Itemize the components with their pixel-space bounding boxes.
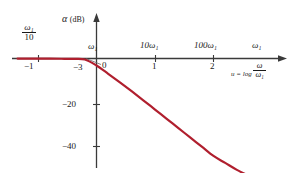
response-curve bbox=[18, 59, 258, 173]
y-tick-neg20: −20 bbox=[62, 100, 76, 109]
x-tick-1: 1 bbox=[152, 62, 157, 71]
x-tick-0: 0 bbox=[102, 61, 107, 70]
x-tick-2: 2 bbox=[210, 62, 215, 71]
x-tick-upper-w1-right: ω₁ bbox=[252, 41, 261, 50]
x-tick-upper-w1: ω₁ bbox=[88, 42, 97, 51]
y-axis-title: α (dB) bbox=[62, 14, 84, 24]
x-axis-title-prefix: u = log bbox=[231, 70, 252, 78]
x-axis-title: u = log ω ω₁ bbox=[231, 61, 266, 78]
w1-over-10-numerator: ω₁ bbox=[22, 23, 35, 32]
x-tick-neg1: −1 bbox=[24, 62, 34, 71]
x-tick-upper-100w1: 100ω₁ bbox=[194, 41, 217, 50]
x-tick-upper-10w1: 10ω₁ bbox=[140, 41, 158, 50]
y-axis bbox=[93, 13, 99, 168]
x-tick-upper-w1-over-10: ω₁ 10 bbox=[16, 23, 42, 42]
x-axis-frac-denominator: ω₁ bbox=[253, 70, 265, 79]
w1-over-10-denominator: 10 bbox=[22, 32, 35, 42]
y-axis-symbol: α bbox=[62, 13, 67, 24]
y-tick-neg40: −40 bbox=[62, 142, 76, 151]
plot-canvas bbox=[0, 0, 289, 173]
y-axis-unit: (dB) bbox=[70, 15, 85, 24]
y-tick-neg3: −3 bbox=[73, 63, 83, 72]
x-axis-frac-numerator: ω bbox=[253, 62, 265, 70]
figure-bode-magnitude-plot: α (dB) ω₁ 10 ω₁ 10ω₁ 100ω₁ ω₁ −1 0 1 2 u… bbox=[0, 0, 289, 173]
